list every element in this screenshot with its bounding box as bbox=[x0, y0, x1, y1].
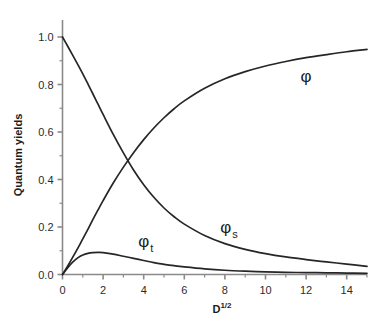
x-tick-label: 0 bbox=[59, 284, 65, 296]
chart-background bbox=[0, 0, 387, 327]
x-tick-label: 2 bbox=[100, 284, 106, 296]
x-tick-label: 10 bbox=[259, 284, 271, 296]
y-tick-label: 0.8 bbox=[38, 79, 53, 91]
chart-figure: 0.00.20.40.60.81.0 02468101214 φφsφt Qua… bbox=[0, 0, 387, 327]
x-tick-label: 6 bbox=[181, 284, 187, 296]
x-axis-title-superscript: 1/2 bbox=[220, 301, 232, 310]
y-tick-label: 0.2 bbox=[38, 221, 53, 233]
x-tick-label: 4 bbox=[141, 284, 147, 296]
y-tick-label: 0.4 bbox=[38, 174, 53, 186]
y-axis-title: Quantum yields bbox=[12, 114, 24, 197]
y-tick-label: 0.0 bbox=[38, 269, 53, 281]
quantum-yields-line-chart: 0.00.20.40.60.81.0 02468101214 φφsφt Qua… bbox=[0, 0, 387, 327]
curve-label-phi: φ bbox=[301, 67, 312, 86]
y-tick-label: 1.0 bbox=[38, 31, 53, 43]
x-tick-label: 8 bbox=[222, 284, 228, 296]
y-tick-label: 0.6 bbox=[38, 126, 53, 138]
x-tick-label: 14 bbox=[341, 284, 353, 296]
x-axis-title-base: D bbox=[212, 303, 220, 315]
x-tick-label: 12 bbox=[300, 284, 312, 296]
